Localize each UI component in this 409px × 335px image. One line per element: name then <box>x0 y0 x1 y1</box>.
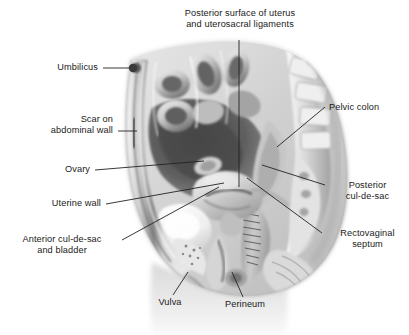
label-posterior-cul-de-sac-line2: cul-de-sac <box>330 191 405 202</box>
label-anterior-cul-de-sac-line1: Anterior cul-de-sac <box>5 234 119 245</box>
label-uterine-wall-text: Uterine wall <box>0 198 101 209</box>
label-posterior-surface-uterus-line1: Posterior surface of uterus <box>160 8 320 19</box>
label-posterior-surface-uterus: Posterior surface of uterus and uterosac… <box>160 8 320 30</box>
label-vulva: Vulva <box>140 297 200 308</box>
label-ovary: Ovary <box>0 164 90 175</box>
label-umbilicus-text: Umbilicus <box>0 62 98 73</box>
label-posterior-surface-uterus-line2: and uterosacral ligaments <box>160 19 320 30</box>
label-scar-line1: Scar on <box>0 114 113 125</box>
label-ovary-text: Ovary <box>0 164 90 175</box>
label-vulva-text: Vulva <box>140 297 200 308</box>
anatomical-figure: Posterior surface of uterus and uterosac… <box>0 0 409 335</box>
label-umbilicus: Umbilicus <box>0 62 98 73</box>
label-posterior-cul-de-sac: Posterior cul-de-sac <box>330 180 405 202</box>
label-posterior-cul-de-sac-line1: Posterior <box>330 180 405 191</box>
label-anterior-cul-de-sac: Anterior cul-de-sac and bladder <box>5 234 119 256</box>
label-uterine-wall: Uterine wall <box>0 198 101 209</box>
label-pelvic-colon-text: Pelvic colon <box>329 102 409 113</box>
label-pelvic-colon: Pelvic colon <box>329 102 409 113</box>
label-scar-line2: abdominal wall <box>0 125 113 136</box>
label-anterior-cul-de-sac-line2: and bladder <box>5 245 119 256</box>
label-scar-abdominal-wall: Scar on abdominal wall <box>0 114 113 136</box>
label-rectovaginal-septum-line2: septum <box>326 239 409 250</box>
label-rectovaginal-septum-line1: Rectovaginal <box>326 228 409 239</box>
label-perineum-text: Perineum <box>212 299 278 310</box>
label-perineum: Perineum <box>212 299 278 310</box>
label-rectovaginal-septum: Rectovaginal septum <box>326 228 409 250</box>
